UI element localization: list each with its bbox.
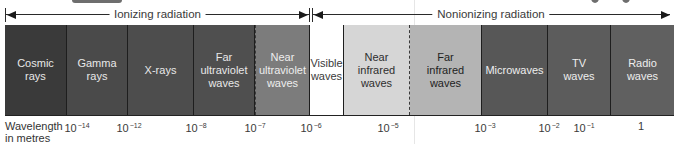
tick-exponent: −7 [258,122,266,129]
wavelength-tick-label: 10−2 [538,119,559,135]
band-label: Microwaves [485,64,543,77]
spectrum-baseline [5,115,674,116]
tick-base: 10 [377,122,389,134]
tick-base: 10 [116,122,128,134]
band-tv: TV waves [548,25,611,115]
tick-exponent: −14 [78,122,90,129]
tick-base: 10 [64,122,76,134]
range-label: Ionizing radiation [109,6,206,22]
arrow-left-icon [7,11,16,19]
arrow-right-icon [661,11,670,19]
tick-base: 10 [300,122,312,134]
tick-base: 1 [638,120,644,132]
band-microwaves: Microwaves [482,25,548,115]
band-label: Near infrared waves [358,51,395,90]
tick-exponent: −3 [488,122,496,129]
band-label: Far ultraviolet waves [200,51,247,90]
band-label: Visible waves [310,57,342,83]
wavelength-tick-label: 10−8 [185,119,206,135]
band-near-uv: Near ultraviolet waves [255,25,310,115]
wavelength-tick-label: 10−14 [64,119,89,135]
tick-exponent: −1 [587,122,595,129]
tick-base: 10 [244,122,256,134]
band-label: TV waves [563,57,594,83]
band-xrays: X-rays [128,25,194,115]
band-label: Near ultraviolet waves [259,51,306,90]
band-gamma: Gamma rays [67,25,128,115]
arrow-left-icon [314,11,323,19]
range-label: Nonionizing radiation [432,6,549,22]
band-label: Gamma rays [77,57,116,83]
band-radio: Radio waves [611,25,674,115]
band-far-ir: Far infrared waves [410,25,482,115]
band-label: X-rays [145,64,177,77]
tick-exponent: −2 [552,122,560,129]
wavelength-axis-title: Wavelength in metres [5,120,63,144]
tick-base: 10 [474,122,486,134]
clipped-heading-fragment [591,0,599,3]
wavelength-tick-label: 1 [638,119,644,133]
range-tick [312,8,313,22]
wavelength-tick-label: 10−5 [377,119,398,135]
tick-exponent: −5 [391,122,399,129]
tick-exponent: −12 [130,122,142,129]
wavelength-tick-label: 10−12 [116,119,141,135]
tick-exponent: −8 [199,122,207,129]
clipped-heading-fragment [72,0,122,3]
wavelength-tick-label: 10−1 [573,119,594,135]
band-near-ir: Near infrared waves [344,25,410,115]
wavelength-tick-label: 10−7 [244,119,265,135]
range-tick [309,8,310,22]
band-far-uv: Far ultraviolet waves [194,25,255,115]
wavelength-tick-label: 10−3 [474,119,495,135]
range-tick [5,8,6,22]
band-cosmic: Cosmic rays [5,25,67,115]
band-label: Radio waves [627,57,658,83]
range-nonionizing: Nonionizing radiation [312,6,670,22]
tick-base: 10 [538,122,550,134]
band-label: Far infrared waves [427,51,464,90]
tick-exponent: −6 [314,122,322,129]
tick-base: 10 [573,122,585,134]
band-visible: Visible waves [310,25,344,115]
tick-base: 10 [185,122,197,134]
arrow-right-icon [299,11,308,19]
band-label: Cosmic rays [17,57,54,83]
spectrum-bar: Cosmic raysGamma raysX-raysFar ultraviol… [5,25,674,115]
wavelength-tick-label: 10−6 [300,119,321,135]
clipped-heading-fragment [622,0,630,3]
range-ionizing: Ionizing radiation [5,6,310,22]
